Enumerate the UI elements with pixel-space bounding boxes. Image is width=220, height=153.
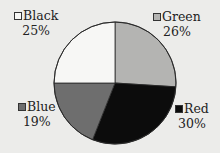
legend-pct-black: 25% [14,23,58,38]
legend-swatch-black [14,12,22,20]
legend-pct-blue: 19% [18,114,56,129]
legend-green: Green 26% [153,9,201,39]
legend-blue: Blue 19% [18,99,56,129]
legend-pct-green: 26% [153,24,201,39]
legend-label-red: Red [184,101,209,116]
legend-swatch-green [153,13,161,21]
legend-black: Black 25% [14,8,58,38]
legend-label-blue: Blue [27,99,56,114]
legend-swatch-blue [18,103,26,111]
legend-pct-red: 30% [175,116,209,131]
pie-slice-black [54,22,115,83]
legend-red: Red 30% [175,101,209,131]
legend-label-green: Green [162,9,201,24]
legend-swatch-red [175,105,183,113]
legend-label-black: Black [23,8,58,23]
pie-slices [54,22,176,144]
